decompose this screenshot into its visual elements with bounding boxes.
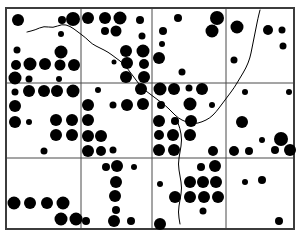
data-point-dot — [82, 99, 94, 111]
data-point-dot — [66, 114, 78, 126]
data-point-dot — [137, 98, 149, 110]
data-point-dot — [153, 52, 165, 64]
data-point-dot — [58, 31, 64, 37]
data-point-dot — [153, 144, 165, 156]
data-point-dot — [55, 60, 66, 71]
data-point-dot — [136, 16, 144, 24]
data-point-dot — [112, 60, 117, 65]
data-point-dot — [259, 137, 265, 143]
data-point-dot — [169, 191, 181, 203]
data-point-dot — [26, 76, 33, 83]
map-canvas — [0, 0, 302, 236]
data-point-dot — [112, 206, 120, 214]
data-point-dot — [41, 148, 48, 155]
data-point-dot — [101, 27, 109, 35]
data-point-dot — [159, 27, 167, 35]
data-point-dot — [131, 164, 137, 170]
data-point-dot — [41, 197, 53, 209]
data-point-dot — [153, 115, 165, 127]
data-point-dot — [138, 71, 150, 83]
data-point-dot — [198, 191, 210, 203]
data-point-dot — [184, 191, 196, 203]
data-point-dot — [8, 197, 21, 210]
data-point-dot — [229, 146, 239, 156]
data-point-dot — [82, 130, 94, 142]
data-point-dot — [50, 129, 62, 141]
data-point-dot — [82, 145, 94, 157]
data-point-dot — [137, 45, 150, 58]
data-point-dot — [108, 215, 120, 227]
data-point-dot — [95, 87, 101, 93]
data-point-dot — [9, 72, 22, 85]
data-point-dot — [280, 43, 287, 50]
data-point-dot — [95, 130, 107, 142]
data-point-dot — [258, 176, 266, 184]
data-point-dot — [114, 12, 127, 25]
data-point-dot — [67, 85, 80, 98]
data-point-dot — [168, 83, 180, 95]
data-point-dot — [139, 59, 149, 69]
data-point-dot — [208, 146, 218, 156]
data-point-dot — [121, 57, 133, 69]
data-point-dot — [231, 21, 244, 34]
data-point-dot — [111, 160, 123, 172]
data-point-dot — [242, 179, 248, 185]
data-point-dot — [184, 129, 196, 141]
data-point-dot — [110, 147, 117, 154]
data-point-dot — [271, 146, 279, 154]
data-point-dot — [24, 197, 36, 209]
data-point-dot — [82, 12, 94, 24]
data-point-dot — [159, 41, 165, 47]
data-point-dot — [245, 147, 253, 155]
data-point-dot — [66, 129, 78, 141]
data-point-dot — [279, 27, 286, 34]
data-point-dot — [284, 144, 296, 156]
dot-density-map-figure — [0, 0, 302, 236]
data-point-dot — [38, 85, 50, 97]
data-point-dot — [121, 99, 133, 111]
data-point-dot — [55, 213, 68, 226]
data-point-dot — [9, 116, 21, 128]
data-point-dot — [26, 119, 32, 125]
data-point-dot — [231, 57, 238, 64]
data-point-dot — [99, 12, 111, 24]
data-point-dot — [58, 16, 66, 24]
data-point-dot — [168, 144, 180, 156]
data-point-dot — [9, 100, 21, 112]
data-point-dot — [51, 85, 63, 97]
data-point-dot — [184, 176, 196, 188]
data-point-dot — [286, 89, 292, 95]
data-point-dot — [82, 217, 90, 225]
data-point-dot — [210, 11, 224, 25]
data-point-dot — [209, 102, 215, 108]
data-point-dot — [70, 213, 83, 226]
data-point-dot — [157, 101, 165, 109]
data-point-dot — [12, 89, 19, 96]
data-point-dot — [174, 14, 182, 22]
data-point-dot — [212, 191, 224, 203]
data-point-dot — [197, 163, 205, 171]
data-point-dot — [196, 83, 208, 95]
data-point-dot — [110, 102, 117, 109]
data-point-dot — [127, 217, 135, 225]
data-point-dot — [14, 47, 21, 54]
data-point-dot — [23, 85, 35, 97]
data-point-dot — [179, 69, 186, 76]
data-point-dot — [111, 26, 122, 37]
data-point-dot — [120, 45, 132, 57]
data-point-dot — [274, 132, 288, 146]
data-point-dot — [110, 176, 122, 188]
data-point-dot — [12, 14, 24, 26]
data-point-dot — [68, 59, 80, 71]
data-point-dot — [11, 60, 21, 70]
data-point-dot — [96, 146, 106, 156]
data-point-dot — [56, 76, 62, 82]
data-point-dot — [102, 163, 110, 171]
data-point-dot — [154, 83, 167, 96]
data-point-dot — [171, 117, 179, 125]
data-point-dot — [209, 160, 221, 172]
data-point-dot — [139, 33, 146, 40]
data-point-dot — [50, 114, 62, 126]
data-point-dot — [135, 83, 147, 95]
data-point-dot — [186, 85, 193, 92]
